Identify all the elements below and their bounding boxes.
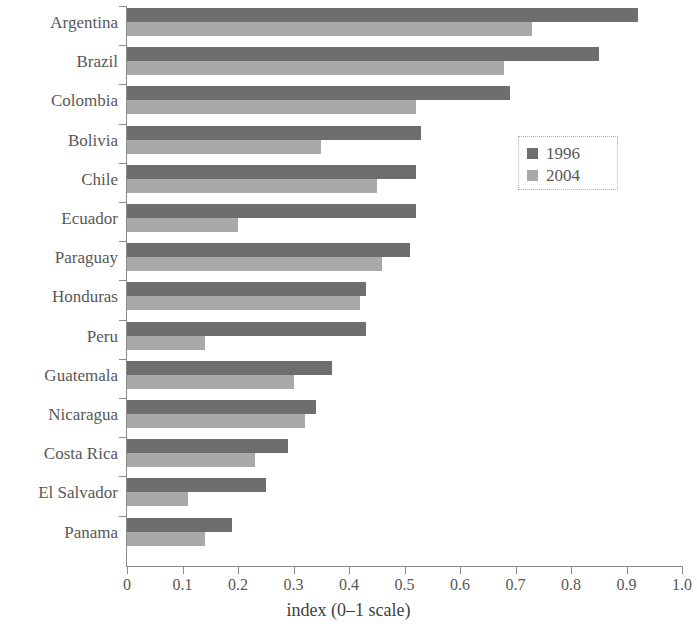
bar-paraguay-2004 (127, 257, 382, 271)
y-axis-label-ecuador: Ecuador (0, 209, 118, 229)
y-axis-label-argentina: Argentina (0, 13, 118, 33)
bar-colombia-2004 (127, 100, 416, 114)
legend-entry-1996: 1996 (527, 142, 617, 164)
y-axis-label-guatemala: Guatemala (0, 366, 118, 386)
y-axis-label-chile: Chile (0, 170, 118, 190)
y-axis-label-nicaragua: Nicaragua (0, 405, 118, 425)
legend-entry-2004: 2004 (527, 164, 617, 186)
y-axis-label-peru: Peru (0, 327, 118, 347)
bar-chile-1996 (127, 165, 416, 179)
x-axis-tick (405, 567, 406, 574)
x-axis-tick (627, 567, 628, 574)
bar-panama-2004 (127, 532, 205, 546)
y-axis-tick (119, 163, 126, 164)
bar-argentina-1996 (127, 8, 638, 22)
x-axis-tick-label: 0.5 (395, 576, 415, 594)
bar-group (127, 8, 682, 36)
bar-costa-rica-2004 (127, 453, 255, 467)
bar-guatemala-1996 (127, 361, 332, 375)
bar-nicaragua-1996 (127, 400, 316, 414)
x-axis-tick (294, 567, 295, 574)
x-axis-tick-label: 0.1 (173, 576, 193, 594)
bar-group (127, 282, 682, 310)
y-axis-tick (119, 280, 126, 281)
legend-label: 2004 (546, 167, 580, 184)
x-axis-tick (183, 567, 184, 574)
y-axis-tick (119, 359, 126, 360)
bar-costa-rica-1996 (127, 439, 288, 453)
x-axis-tick-label: 0.8 (561, 576, 581, 594)
x-axis-tick (682, 567, 683, 574)
y-axis-tick (119, 6, 126, 7)
bar-honduras-1996 (127, 282, 366, 296)
y-axis-label-costa-rica: Costa Rica (0, 444, 118, 464)
y-axis-label-brazil: Brazil (0, 52, 118, 72)
y-axis-tick (119, 84, 126, 85)
bar-peru-1996 (127, 322, 366, 336)
bar-paraguay-1996 (127, 243, 410, 257)
bar-colombia-1996 (127, 86, 510, 100)
x-axis-tick-label: 0.9 (617, 576, 637, 594)
bar-ecuador-2004 (127, 218, 238, 232)
x-axis-tick (460, 567, 461, 574)
bar-ecuador-1996 (127, 204, 416, 218)
x-axis-tick (238, 567, 239, 574)
y-axis-label-bolivia: Bolivia (0, 131, 118, 151)
bar-honduras-2004 (127, 296, 360, 310)
bar-group (127, 243, 682, 271)
x-axis-tick-label: 0.4 (339, 576, 359, 594)
y-axis-label-paraguay: Paraguay (0, 248, 118, 268)
bar-nicaragua-2004 (127, 414, 305, 428)
bar-group (127, 86, 682, 114)
y-axis-tick (119, 241, 126, 242)
bar-argentina-2004 (127, 22, 532, 36)
y-axis-label-colombia: Colombia (0, 91, 118, 111)
bar-group (127, 361, 682, 389)
x-axis-tick (571, 567, 572, 574)
bar-bolivia-2004 (127, 140, 321, 154)
x-axis-tick-label: 1.0 (672, 576, 692, 594)
y-axis-tick (119, 202, 126, 203)
y-axis-tick (119, 516, 126, 517)
bar-chart: ArgentinaBrazilColombiaBoliviaChileEcuad… (0, 0, 697, 635)
bar-el-salvador-2004 (127, 492, 188, 506)
bar-group (127, 322, 682, 350)
legend-swatch-icon (527, 148, 538, 159)
y-axis-tick (119, 476, 126, 477)
y-axis-label-honduras: Honduras (0, 287, 118, 307)
bar-brazil-2004 (127, 61, 504, 75)
x-axis-tick (127, 567, 128, 574)
bar-group (127, 400, 682, 428)
bar-panama-1996 (127, 518, 232, 532)
y-axis-label-panama: Panama (0, 523, 118, 543)
bar-peru-2004 (127, 336, 205, 350)
y-axis-tick (119, 124, 126, 125)
chart-legend: 19962004 (518, 136, 618, 190)
x-axis-tick-label: 0.6 (450, 576, 470, 594)
bar-group (127, 204, 682, 232)
y-axis-label-el-salvador: El Salvador (0, 483, 118, 503)
bar-group (127, 478, 682, 506)
bar-group (127, 518, 682, 546)
y-axis-tick (119, 45, 126, 46)
x-axis-title: index (0–1 scale) (0, 600, 697, 621)
bar-bolivia-1996 (127, 126, 421, 140)
x-axis-tick (516, 567, 517, 574)
plot-area (127, 8, 682, 564)
y-axis-labels: ArgentinaBrazilColombiaBoliviaChileEcuad… (0, 0, 118, 635)
y-axis-tick (119, 437, 126, 438)
bar-brazil-1996 (127, 47, 599, 61)
x-axis-tick (349, 567, 350, 574)
x-axis-tick-label: 0.7 (506, 576, 526, 594)
x-axis-tick-label: 0 (123, 576, 131, 594)
x-axis-tick-label: 0.3 (284, 576, 304, 594)
x-axis-tick-label: 0.2 (228, 576, 248, 594)
y-axis-tick (119, 320, 126, 321)
bar-group (127, 47, 682, 75)
bar-el-salvador-1996 (127, 478, 266, 492)
legend-swatch-icon (527, 170, 538, 181)
bar-group (127, 439, 682, 467)
legend-label: 1996 (546, 145, 580, 162)
y-axis-tick (119, 398, 126, 399)
bar-chile-2004 (127, 179, 377, 193)
